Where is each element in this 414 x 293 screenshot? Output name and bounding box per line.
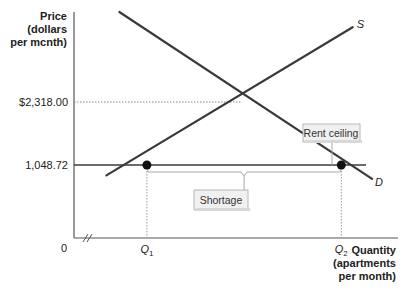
x-tick-label-q1: Q1 (140, 243, 154, 258)
y-tick-label-rent-ceiling: 1,048.72 (25, 159, 68, 171)
supply-curve (106, 27, 352, 175)
y-tick-label-equilibrium: $2,318.00 (19, 96, 68, 108)
rent-ceiling-chart: Price (dollars per mcnth) Quantity (apar… (0, 0, 414, 293)
x-axis-title-line-3: per month) (339, 270, 397, 282)
shortage-bracket (148, 167, 340, 176)
q2-point-marker (337, 161, 346, 170)
demand-curve (119, 12, 372, 179)
shortage-callout: Shortage (194, 190, 250, 211)
rent-ceiling-callout: Rent ceiling (303, 124, 362, 143)
x-axis-title-line-1: Quantity (351, 244, 396, 256)
y-axis-title-line-2: (dollars (27, 23, 67, 35)
shortage-callout-label: Shortage (200, 194, 243, 206)
y-axis-title-line-3: per mcnth) (10, 36, 67, 48)
x-tick-label-q2: Q2 (335, 243, 349, 258)
demand-curve-label: D (375, 176, 383, 188)
origin-label: 0 (61, 242, 67, 254)
rent-ceiling-callout-label: Rent ceiling (304, 127, 359, 139)
q1-point-marker (142, 161, 151, 170)
y-axis-title-line-1: Price (40, 10, 67, 22)
x-axis-title-line-2: (apartments (333, 257, 396, 269)
supply-curve-label: S (357, 18, 365, 30)
